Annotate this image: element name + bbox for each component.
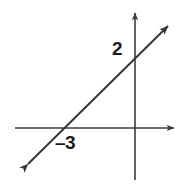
plot-background [0,0,182,189]
y-intercept-label: 2 [112,39,122,58]
x-intercept-label: –3 [55,133,75,152]
linear-graph-figure: 2 –3 [0,0,182,189]
coordinate-plane-svg [0,0,182,189]
